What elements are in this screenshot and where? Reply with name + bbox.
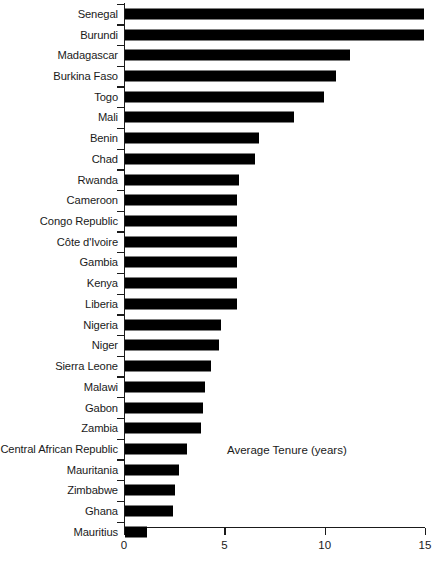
- bar-row: Zambia: [0, 418, 433, 439]
- y-axis-tick: [117, 66, 124, 67]
- bar: [125, 216, 237, 227]
- bar-row: Togo: [0, 86, 433, 107]
- bar-row: Malawi: [0, 376, 433, 397]
- category-label: Nigeria: [83, 319, 118, 331]
- x-axis-tick: [425, 528, 426, 535]
- bar-row: Burundi: [0, 24, 433, 45]
- bar: [125, 29, 424, 40]
- y-axis-tick: [117, 273, 124, 274]
- y-axis-tick: [117, 4, 124, 5]
- y-axis-tick: [117, 314, 124, 315]
- bar: [125, 443, 187, 454]
- category-label: Burkina Faso: [53, 70, 118, 82]
- bar-row: Liberia: [0, 294, 433, 315]
- bar-row: Niger: [0, 335, 433, 356]
- bar: [125, 195, 237, 206]
- bar-row: Côte d'Ivoire: [0, 231, 433, 252]
- category-label: Mali: [98, 111, 118, 123]
- bar-row: Chad: [0, 149, 433, 170]
- bar-row: Burkina Faso: [0, 66, 433, 87]
- x-axis-tick-label: 5: [221, 538, 227, 552]
- bar: [125, 71, 336, 82]
- category-label: Central African Republic: [0, 443, 118, 455]
- category-label: Malawi: [84, 381, 118, 393]
- y-axis-tick: [117, 522, 124, 523]
- bar-row: Benin: [0, 128, 433, 149]
- bar-row: Gambia: [0, 252, 433, 273]
- y-axis-tick: [117, 335, 124, 336]
- y-axis-tick: [117, 418, 124, 419]
- bar-row: Madagascar: [0, 45, 433, 66]
- y-axis-tick: [117, 211, 124, 212]
- bar: [125, 526, 147, 537]
- category-label: Côte d'Ivoire: [57, 236, 118, 248]
- bar: [125, 174, 239, 185]
- x-axis-tick: [224, 528, 225, 535]
- bar: [125, 50, 350, 61]
- y-axis-tick: [117, 376, 124, 377]
- bar-row: Mali: [0, 107, 433, 128]
- category-label: Burundi: [80, 29, 118, 41]
- category-label: Zambia: [81, 422, 118, 434]
- category-label: Chad: [92, 153, 118, 165]
- category-label: Senegal: [78, 8, 118, 20]
- bar-row: Mauritania: [0, 459, 433, 480]
- bar-row: Mauritius: [0, 522, 433, 543]
- category-label: Ghana: [85, 505, 118, 517]
- bar: [125, 464, 179, 475]
- y-axis-tick: [117, 86, 124, 87]
- y-axis-tick: [117, 459, 124, 460]
- bar-row: Kenya: [0, 273, 433, 294]
- bar-row: Gabon: [0, 397, 433, 418]
- bar: [125, 340, 219, 351]
- category-label: Kenya: [87, 277, 118, 289]
- y-axis-tick: [117, 190, 124, 191]
- y-axis-tick: [117, 252, 124, 253]
- bar-row: Nigeria: [0, 314, 433, 335]
- category-label: Liberia: [85, 298, 118, 310]
- y-axis-tick: [117, 149, 124, 150]
- bar: [125, 402, 203, 413]
- bar-row: Senegal: [0, 4, 433, 25]
- y-axis-tick: [117, 356, 124, 357]
- bar: [125, 485, 175, 496]
- plot-area: SenegalBurundiMadagascarBurkina FasoTogo…: [0, 0, 433, 562]
- bar: [125, 112, 294, 123]
- category-label: Madagascar: [57, 49, 118, 61]
- category-label: Cameroon: [67, 194, 118, 206]
- y-axis-tick: [117, 169, 124, 170]
- bar: [125, 91, 324, 102]
- bar-row: Congo Republic: [0, 211, 433, 232]
- category-label: Zimbabwe: [67, 484, 118, 496]
- y-axis-tick: [117, 397, 124, 398]
- y-axis-tick: [117, 128, 124, 129]
- category-label: Benin: [90, 132, 118, 144]
- y-axis-tick: [117, 24, 124, 25]
- bar: [125, 236, 237, 247]
- bar-row: Cameroon: [0, 190, 433, 211]
- bar: [125, 506, 173, 517]
- bar: [125, 133, 259, 144]
- y-axis-tick: [117, 439, 124, 440]
- category-label: Rwanda: [78, 174, 118, 186]
- bar: [125, 361, 211, 372]
- bar: [125, 319, 221, 330]
- bar-row: Rwanda: [0, 169, 433, 190]
- bar: [125, 278, 237, 289]
- axis-annotation-label: Average Tenure (years): [227, 443, 347, 457]
- category-label: Sierra Leone: [55, 360, 118, 372]
- bar: [125, 381, 205, 392]
- category-label: Mauritius: [74, 526, 118, 538]
- x-axis-tick-label: 10: [318, 538, 331, 552]
- category-label: Gambia: [79, 256, 118, 268]
- horizontal-bar-chart: SenegalBurundiMadagascarBurkina FasoTogo…: [0, 0, 433, 562]
- y-axis-tick: [117, 231, 124, 232]
- y-axis-tick: [117, 501, 124, 502]
- y-axis-tick: [117, 107, 124, 108]
- category-label: Mauritania: [67, 464, 118, 476]
- category-label: Togo: [94, 91, 118, 103]
- bar: [125, 257, 237, 268]
- y-axis-tick: [117, 45, 124, 46]
- bar-row: Sierra Leone: [0, 356, 433, 377]
- bar-row: Ghana: [0, 501, 433, 522]
